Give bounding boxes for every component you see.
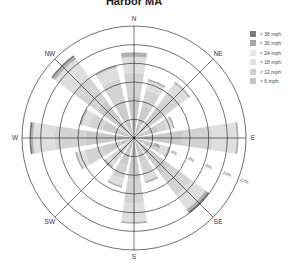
legend-swatch — [250, 40, 256, 46]
legend-swatch — [250, 31, 256, 37]
radial-tick-label: 12% — [239, 177, 249, 185]
legend-label: < 24 mph — [260, 50, 281, 56]
legend-label: < 18 mph — [260, 59, 281, 65]
legend-item: < 18 mph — [250, 58, 281, 68]
legend-swatch — [250, 69, 256, 75]
legend-swatch — [250, 50, 256, 56]
legend-item: < 36 mph — [250, 29, 281, 39]
legend-item: < 24 mph — [250, 48, 281, 58]
legend-item: < 30 mph — [250, 39, 281, 49]
radial-tick-label: 6% — [187, 156, 195, 163]
legend-swatch — [250, 59, 256, 65]
legend-item: < 12 mph — [250, 67, 281, 77]
direction-label-sw: SW — [45, 218, 56, 225]
radial-tick-label: 10% — [222, 170, 232, 178]
direction-label-s: S — [132, 253, 137, 260]
direction-label-w: W — [12, 134, 19, 141]
direction-label-ne: NE — [214, 50, 224, 57]
direction-label-e: E — [251, 134, 256, 141]
legend-label: < 30 mph — [260, 40, 281, 46]
wind-rose-plot: 2%4%6%8%10%12% NNEESESSWWNW — [0, 0, 291, 269]
polar-grid — [22, 26, 246, 250]
direction-label-nw: NW — [44, 50, 56, 57]
legend-label: < 6 mph — [260, 78, 278, 84]
legend-item: < 6 mph — [250, 77, 281, 87]
legend-swatch — [250, 78, 256, 84]
legend-label: < 12 mph — [260, 69, 281, 75]
direction-label-n: N — [132, 15, 137, 22]
radial-tick-label: 8% — [205, 163, 213, 170]
legend-label: < 36 mph — [260, 31, 281, 37]
radial-tick-label: 4% — [170, 149, 178, 156]
direction-label-se: SE — [214, 218, 223, 225]
legend: < 36 mph< 30 mph< 24 mph< 18 mph< 12 mph… — [250, 29, 281, 86]
